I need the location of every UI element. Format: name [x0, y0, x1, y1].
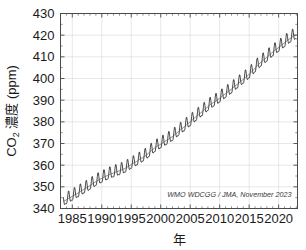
x-tick-label: 2000 [146, 211, 175, 226]
y-tick-label: 380 [33, 114, 55, 129]
y-tick-label: 360 [33, 158, 55, 173]
x-tick-label: 2005 [176, 211, 205, 226]
y-tick-label: 350 [33, 179, 55, 194]
x-tick-label: 1985 [58, 211, 87, 226]
y-tick-label: 400 [33, 71, 55, 86]
y-tick-label: 420 [33, 28, 55, 43]
co2-concentration-chart: 19851990199520002005201020152020 3403503… [0, 0, 306, 250]
y-tick-label: 370 [33, 136, 55, 151]
x-tick-label: 2010 [205, 211, 234, 226]
x-tick-label: 2020 [264, 211, 293, 226]
y-tick-label: 390 [33, 93, 55, 108]
y-axis-title-main: CO [4, 137, 19, 157]
x-tick-label: 1990 [87, 211, 116, 226]
y-tick-label: 410 [33, 49, 55, 64]
x-axis-tick-labels: 19851990199520002005201020152020 [58, 211, 293, 226]
y-axis-title: CO2 濃度 (ppm) [4, 65, 21, 157]
x-axis-title: 年 [173, 232, 186, 247]
y-axis-title-text: CO2 濃度 (ppm) [4, 65, 21, 157]
y-tick-label: 430 [33, 6, 55, 21]
x-tick-label: 1995 [117, 211, 146, 226]
chart-canvas: 19851990199520002005201020152020 3403503… [0, 0, 306, 250]
source-annotation: WMO WDCGG / JMA, November 2023 [167, 190, 291, 199]
x-tick-label: 2015 [235, 211, 264, 226]
y-tick-label: 340 [33, 201, 55, 216]
y-axis-title-rest: 濃度 (ppm) [4, 65, 19, 132]
